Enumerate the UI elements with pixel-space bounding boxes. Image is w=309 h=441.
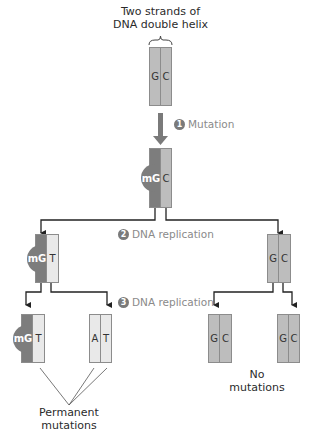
strand-left: A — [89, 314, 101, 363]
top-label-line2: DNA double helix — [100, 18, 221, 31]
step-3-replication: 3 DNA replication — [118, 296, 214, 308]
dna-duplex-gen2-d: G C — [277, 314, 300, 363]
strand-left: G — [208, 314, 220, 363]
top-label: Two strands of DNA double helix — [100, 5, 221, 31]
dna-duplex-mutated: mG C — [149, 148, 172, 208]
step-1-mutation: 1 Mutation — [174, 118, 234, 130]
strand-right: C — [220, 314, 232, 363]
strand-methylated: mG — [35, 234, 47, 283]
strand-methylated: mG — [21, 314, 33, 363]
dna-duplex-gen1-right: G C — [267, 234, 291, 283]
strand-right: T — [33, 314, 45, 363]
no-mutations-label: No mutations — [222, 368, 292, 394]
step-number-badge: 1 — [174, 119, 185, 130]
strand-right: C — [161, 148, 172, 208]
permanent-line1: Permanent — [29, 406, 109, 419]
strand-left: G — [277, 314, 289, 363]
strand-right: T — [101, 314, 112, 363]
strand-methylated: mG — [149, 148, 161, 208]
step-number-badge: 2 — [118, 229, 129, 240]
strand-label: mG — [28, 253, 47, 264]
strand-right: C — [289, 314, 300, 363]
step-label: DNA replication — [132, 228, 214, 240]
step-label: Mutation — [188, 118, 234, 130]
strand-right: T — [47, 234, 59, 283]
strand-right: C — [279, 234, 291, 283]
dna-duplex-gen2-a: mG T — [21, 314, 45, 363]
strand-left: G — [149, 47, 161, 106]
step-label: DNA replication — [132, 296, 214, 308]
strand-label: mG — [142, 173, 161, 184]
step-number-badge: 3 — [118, 297, 129, 308]
permanent-line2: mutations — [29, 419, 109, 432]
strand-right: C — [161, 47, 172, 106]
permanent-mutations-label: Permanent mutations — [29, 406, 109, 432]
dna-duplex-gen1-left: mG T — [35, 234, 59, 283]
step-2-replication: 2 DNA replication — [118, 228, 214, 240]
dna-duplex-original: G C — [149, 47, 172, 106]
dna-duplex-gen2-c: G C — [208, 314, 232, 363]
strand-label: mG — [14, 333, 33, 344]
strand-left: G — [267, 234, 279, 283]
dna-duplex-gen2-b: A T — [89, 314, 112, 363]
top-label-line1: Two strands of — [100, 5, 221, 18]
